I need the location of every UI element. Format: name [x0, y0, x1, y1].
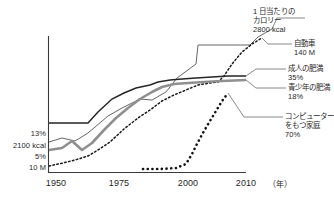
- series-label-adult-obesity: 成人の肥満 35%: [288, 64, 323, 82]
- leader-line-youth-obesity: [246, 80, 286, 88]
- series-line-computers: [143, 93, 228, 169]
- series-line-youth-obesity: [49, 80, 246, 150]
- y-tick-label-5pct: 5%: [2, 152, 46, 161]
- series-line-automobiles: [49, 38, 262, 166]
- series-label-adult-obesity-line2: 35%: [288, 73, 323, 82]
- series-label-calories-line3: 2800 kcal: [253, 25, 295, 34]
- x-tick-label-2010: 2010: [224, 178, 268, 188]
- leader-line-automobiles: [262, 38, 292, 44]
- y-tick-label-2100kcal: 2100 kcal: [0, 141, 46, 150]
- x-tick-label-1950: 1950: [34, 178, 78, 188]
- series-label-youth-obesity-line1: 青少年の肥満: [288, 83, 330, 92]
- y-tick-label-13pct: 13%: [2, 129, 46, 138]
- series-label-computers-line3: 70%: [285, 130, 334, 139]
- series-label-automobiles-line2: 140 M: [294, 48, 315, 57]
- series-label-computers: コンピューター をもつ家庭 70%: [285, 112, 334, 140]
- series-label-calories: 1 日当たりの カロリー 2800 kcal: [253, 7, 295, 35]
- series-label-adult-obesity-line1: 成人の肥満: [288, 64, 323, 73]
- y-tick-label-10m: 10 M: [2, 163, 46, 172]
- series-label-automobiles-line1: 自動車: [294, 39, 315, 48]
- series-label-youth-obesity: 青少年の肥満 18%: [288, 83, 330, 101]
- leader-line-computers: [228, 93, 283, 117]
- series-line-calories: [49, 29, 272, 142]
- series-label-automobiles: 自動車 140 M: [294, 39, 315, 57]
- x-axis-unit-label: （年）: [268, 178, 292, 189]
- series-label-computers-line2: をもつ家庭: [285, 121, 334, 130]
- series-label-calories-line2: カロリー: [253, 16, 295, 25]
- series-label-youth-obesity-line2: 18%: [288, 92, 330, 101]
- series-label-computers-line1: コンピューター: [285, 112, 334, 121]
- x-tick-label-2000: 2000: [166, 178, 210, 188]
- leader-line-adult-obesity: [246, 69, 286, 76]
- series-label-calories-line1: 1 日当たりの: [253, 7, 295, 16]
- x-tick-label-1975: 1975: [97, 178, 141, 188]
